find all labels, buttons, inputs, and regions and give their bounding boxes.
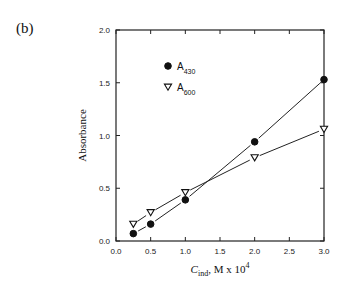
data-point-a430 (130, 230, 137, 237)
x-axis-title: Cind, M x 104 (191, 261, 250, 278)
absorbance-chart: 0.00.51.01.52.02.53.00.00.51.01.52.0Abso… (0, 0, 350, 288)
series-line-a430 (138, 227, 146, 231)
x-tick-label: 0.5 (145, 247, 157, 256)
x-tick-label: 2.5 (284, 247, 296, 256)
y-tick-label: 0.5 (99, 184, 111, 193)
x-tick-label: 3.0 (318, 247, 330, 256)
legend-label-a430: A430 (177, 61, 195, 75)
data-point-a600 (130, 221, 137, 227)
x-tick-label: 1.0 (180, 247, 192, 256)
legend-marker-a600 (164, 84, 171, 90)
y-tick-label: 1.5 (99, 79, 111, 88)
y-tick-label: 0.0 (99, 237, 111, 246)
series-line-a430 (190, 145, 251, 196)
legend-marker-a430 (165, 63, 172, 70)
series-line-a430 (155, 203, 181, 221)
data-point-a600 (251, 155, 258, 161)
data-point-a600 (320, 126, 327, 132)
x-tick-label: 1.5 (214, 247, 226, 256)
data-point-a600 (182, 190, 189, 196)
x-tick-label: 2.0 (249, 247, 261, 256)
y-tick-label: 2.0 (99, 26, 111, 35)
series-line-a600 (138, 216, 146, 221)
data-point-a430 (251, 139, 258, 146)
data-point-a430 (321, 76, 328, 83)
legend-label-a600: A600 (177, 82, 195, 96)
series-line-a600 (260, 131, 319, 155)
data-point-a430 (147, 221, 154, 228)
series-line-a430 (259, 83, 320, 138)
y-axis-title: Absorbance (76, 109, 88, 162)
y-tick-label: 1.0 (99, 132, 111, 141)
series-line-a600 (155, 195, 180, 210)
series-line-a600 (190, 160, 250, 190)
data-point-a600 (147, 210, 154, 216)
data-point-a430 (182, 197, 189, 204)
x-tick-label: 0.0 (110, 247, 122, 256)
